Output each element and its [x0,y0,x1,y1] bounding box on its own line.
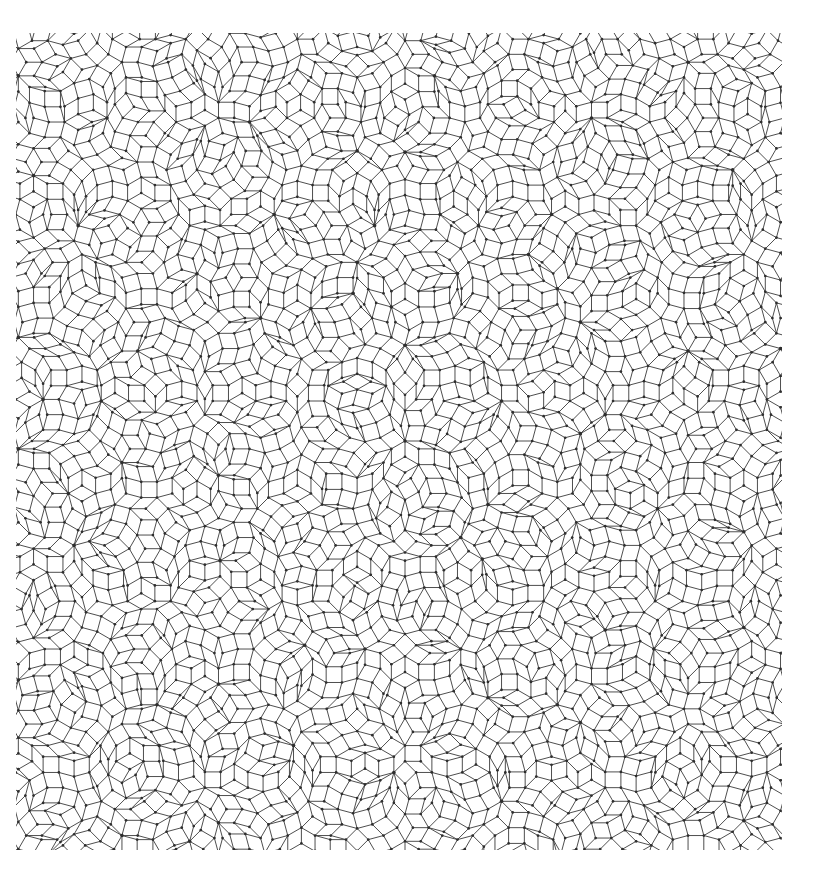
tiling-figure-root [0,0,822,888]
quasiperiodic-tiling-svg [0,0,822,888]
